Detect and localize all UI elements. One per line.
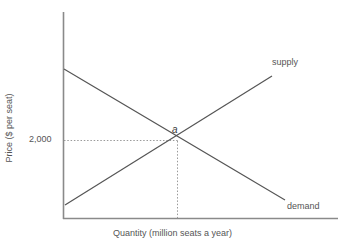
equilibrium-point-label: a	[172, 125, 178, 135]
y-axis-tick-label-2000: 2,000	[29, 135, 52, 144]
supply-curve-label: supply	[272, 58, 298, 67]
demand-curve-label: demand	[287, 202, 320, 211]
x-axis-title: Quantity (million seats a year)	[113, 229, 232, 238]
supply-demand-chart: Price ($ per seat) Quantity (million sea…	[0, 0, 356, 251]
chart-canvas	[0, 0, 356, 251]
y-axis-title: Price ($ per seat)	[2, 68, 16, 188]
y-axis-title-text: Price ($ per seat)	[5, 93, 14, 162]
supply-curve	[65, 76, 272, 205]
